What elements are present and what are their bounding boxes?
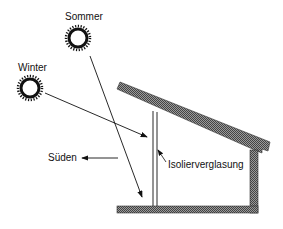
- summer-label: Sommer: [65, 11, 103, 22]
- floor-slab: [117, 206, 258, 213]
- rear-wall: [250, 150, 258, 213]
- winter-label: Winter: [18, 62, 47, 73]
- solar-diagram: [0, 0, 283, 229]
- roof: [117, 82, 270, 153]
- winter-sun-icon: [18, 76, 42, 100]
- summer-sun-icon: [66, 26, 90, 50]
- summer-ray-arrow: [90, 56, 142, 197]
- south-label: Süden: [48, 152, 77, 163]
- insulated-glazing: [153, 111, 157, 206]
- winter-ray-arrow: [45, 93, 147, 137]
- glazing-leader-arrow: [158, 150, 166, 162]
- glazing-label: Isolierverglasung: [168, 159, 244, 170]
